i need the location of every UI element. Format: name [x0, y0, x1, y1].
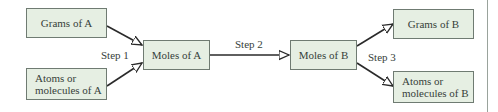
node-grams-of-a: Grams of A [26, 8, 107, 38]
node-label: Atoms or molecules of B [402, 75, 469, 99]
diagram-canvas: Grams of A Atoms or molecules of A Step … [0, 0, 498, 112]
node-label: Moles of A [152, 49, 202, 61]
node-label: Moles of B [299, 49, 349, 61]
page-border-line [487, 0, 488, 112]
arrow-atoms-a-to-moles-a [107, 63, 142, 86]
node-grams-of-b: Grams of B [393, 9, 474, 39]
arrow-moles-b-to-grams-b [357, 24, 393, 46]
node-moles-of-a: Moles of A [143, 40, 210, 70]
node-atoms-or-molecules-of-a: Atoms or molecules of A [26, 68, 107, 100]
step-3-label: Step 3 [368, 51, 396, 63]
node-label: Atoms or molecules of A [35, 72, 102, 96]
step-2-label: Step 2 [235, 38, 263, 50]
arrow-moles-b-to-atoms-b [357, 63, 393, 86]
node-moles-of-b: Moles of B [290, 40, 357, 70]
step-1-label: Step 1 [101, 49, 129, 61]
arrow-grams-a-to-moles-a [107, 26, 142, 45]
node-label: Grams of B [408, 18, 459, 30]
node-atoms-or-molecules-of-b: Atoms or molecules of B [393, 71, 474, 103]
node-label: Grams of A [41, 17, 92, 29]
